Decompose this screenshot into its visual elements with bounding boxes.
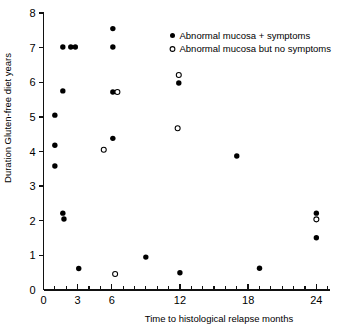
- data-point: [110, 26, 115, 31]
- data-point: [52, 112, 57, 117]
- data-point: [234, 153, 239, 158]
- data-point: [176, 72, 181, 77]
- data-point: [101, 147, 106, 152]
- data-point: [60, 88, 65, 93]
- x-axis-title: Time to histological relapse months: [145, 313, 294, 324]
- data-point: [113, 272, 118, 277]
- data-point: [76, 266, 81, 271]
- data-point: [61, 216, 66, 221]
- plot-canvas: 012345678 036121824 Abnormal mucosa + sy…: [0, 0, 349, 329]
- chart-legend: Abnormal mucosa + symptomsAbnormal mucos…: [170, 30, 331, 55]
- x-axis-tick-label: 6: [109, 294, 115, 306]
- data-point: [52, 163, 57, 168]
- y-axis: 012345678: [29, 7, 43, 296]
- data-point: [314, 217, 319, 222]
- data-point: [143, 254, 148, 259]
- data-point: [52, 143, 57, 148]
- data-points-layer: [52, 26, 319, 277]
- x-axis-tick-label: 18: [242, 294, 254, 306]
- data-point: [115, 89, 120, 94]
- y-axis-tick-label: 5: [29, 111, 35, 123]
- data-point: [73, 44, 78, 49]
- y-axis-title: Duration Gluten-free diet years: [2, 53, 13, 183]
- y-axis-tick-label: 2: [29, 215, 35, 227]
- y-axis-tick-label: 3: [29, 180, 35, 192]
- data-point: [314, 210, 319, 215]
- data-point: [177, 270, 182, 275]
- y-axis-tick-label: 1: [29, 249, 35, 261]
- data-point: [175, 126, 180, 131]
- x-axis-tick-label: 12: [174, 294, 186, 306]
- y-axis-tick-label: 0: [29, 284, 35, 296]
- y-axis-tick-label: 8: [29, 7, 35, 19]
- data-point: [60, 44, 65, 49]
- y-axis-tick-label: 6: [29, 76, 35, 88]
- data-point: [110, 44, 115, 49]
- legend-marker-open-icon: [170, 47, 175, 52]
- data-point: [110, 136, 115, 141]
- y-axis-tick-label: 4: [29, 146, 35, 158]
- x-axis-tick-label: 3: [75, 294, 81, 306]
- x-axis-tick-label: 0: [40, 294, 46, 306]
- legend-marker-filled-icon: [170, 33, 175, 38]
- data-point: [176, 80, 181, 85]
- data-point: [314, 235, 319, 240]
- legend-label: Abnormal mucosa + symptoms: [180, 30, 311, 41]
- data-point: [60, 210, 65, 215]
- x-axis-tick-label: 24: [310, 294, 322, 306]
- data-point: [257, 265, 262, 270]
- y-axis-tick-label: 7: [29, 42, 35, 54]
- scatter-plot-figure: 012345678 036121824 Abnormal mucosa + sy…: [0, 0, 349, 329]
- x-axis: 036121824: [40, 284, 330, 306]
- legend-label: Abnormal mucosa but no symptoms: [180, 43, 332, 54]
